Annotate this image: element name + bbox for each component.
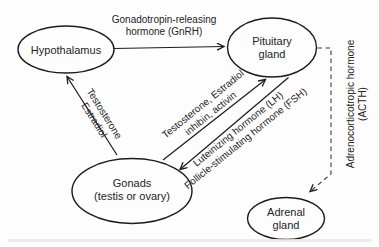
acth-arrow-label: Adrenocorticotropic hormone (ACTH) xyxy=(345,40,369,168)
gnrh-arrow-label: Gonadotropin-releasing hormone (GnRH) xyxy=(112,14,217,38)
gonads-label: Gonads (testis or ovary) xyxy=(94,177,170,203)
adrenal-label-line1: Adrenal xyxy=(267,206,305,219)
pituitary-label-line2: gland xyxy=(252,48,292,61)
adrenal-label: Adrenal gland xyxy=(267,206,305,232)
gnrh-arrow-label-line1: Gonadotropin-releasing xyxy=(112,14,217,26)
gonads-label-line1: Gonads xyxy=(94,177,170,190)
acth-label-line2: (ACTH) xyxy=(357,40,369,168)
hypothalamus-label: Hypothalamus xyxy=(31,43,101,56)
pituitary-to-adrenal-dashed-arrow xyxy=(310,48,331,192)
adrenal-label-line2: gland xyxy=(267,219,305,232)
gonads-label-line2: (testis or ovary) xyxy=(94,190,170,203)
acth-label-line1: Adrenocorticotropic hormone xyxy=(345,40,357,168)
scan-artifact xyxy=(8,239,372,242)
gnrh-arrow-label-line2: hormone (GnRH) xyxy=(112,26,217,38)
pituitary-label-line1: Pituitary xyxy=(252,35,292,48)
gnrh-arrow xyxy=(114,47,224,49)
pituitary-label: Pituitary gland xyxy=(252,35,292,61)
hypothalamus-label-text: Hypothalamus xyxy=(31,43,101,56)
endocrine-axis-diagram: Hypothalamus Pituitary gland Gonads (tes… xyxy=(0,0,379,247)
